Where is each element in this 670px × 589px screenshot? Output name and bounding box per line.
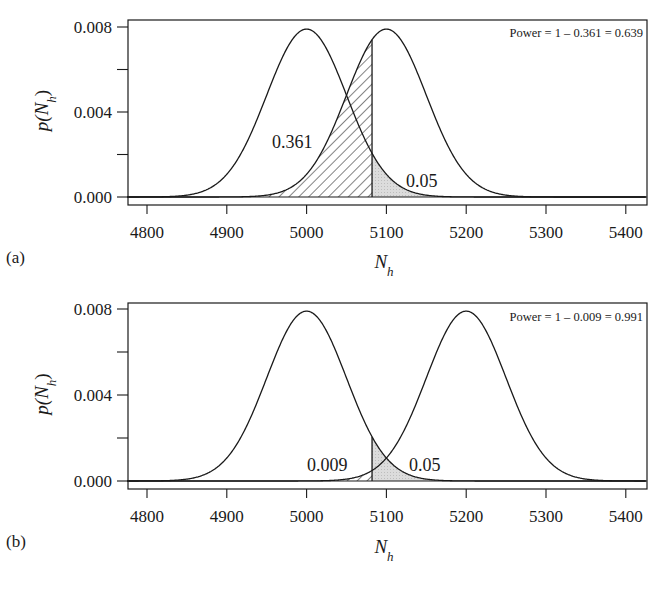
x-axis: 4800490050005100520053005400 (130, 205, 643, 242)
x-tick-label: 4900 (210, 223, 244, 242)
x-tick-label: 5400 (609, 223, 643, 242)
panel-a: 0.0000.0040.008 480049005000510052005300… (0, 0, 670, 290)
h1-density-curve (127, 311, 646, 481)
y-tick-label: 0.008 (74, 18, 112, 37)
y-axis: 0.0000.0040.008 (74, 18, 128, 207)
plot-area (127, 20, 647, 205)
alpha-annotation: 0.05 (406, 171, 438, 191)
y-tick-label: 0.000 (74, 188, 112, 207)
x-tick-label: 5300 (529, 223, 563, 242)
x-axis: 4800490050005100520053005400 (130, 489, 643, 526)
y-axis: 0.0000.0040.008 (74, 300, 128, 491)
beta-region (127, 40, 372, 197)
power-text: Power = 1 – 0.009 = 0.991 (509, 310, 643, 324)
panel-b: 0.0000.0040.008 480049005000510052005300… (0, 283, 670, 583)
plot-area (127, 303, 647, 489)
x-axis-title: Nh (373, 536, 393, 564)
power-text: Power = 1 – 0.361 = 0.639 (509, 26, 643, 40)
x-tick-label: 5400 (609, 507, 643, 526)
x-tick-label: 5100 (369, 507, 403, 526)
x-tick-label: 5200 (449, 507, 483, 526)
x-tick-label: 5200 (449, 223, 483, 242)
h1-density-curve (127, 29, 646, 197)
x-tick-label: 5100 (369, 223, 403, 242)
x-axis-title: Nh (373, 251, 393, 279)
y-tick-label: 0.004 (74, 103, 113, 122)
chart-a-svg: 0.0000.0040.008 480049005000510052005300… (0, 0, 670, 290)
h0-density-curve (127, 311, 646, 481)
h0-density-curve (127, 29, 646, 197)
x-tick-label: 4800 (130, 223, 164, 242)
x-tick-label: 5300 (529, 507, 563, 526)
y-tick-label: 0.008 (74, 300, 112, 319)
x-tick-label: 5000 (290, 223, 324, 242)
panel-label: (a) (6, 248, 25, 267)
beta-annotation: 0.361 (272, 132, 313, 152)
x-tick-label: 4900 (210, 507, 244, 526)
y-axis-title: p(Nh) (31, 373, 59, 416)
beta-annotation: 0.009 (307, 455, 348, 475)
y-tick-label: 0.004 (74, 386, 113, 405)
y-tick-label: 0.000 (74, 472, 112, 491)
chart-b-svg: 0.0000.0040.008 480049005000510052005300… (0, 283, 670, 583)
alpha-annotation: 0.05 (409, 455, 441, 475)
x-tick-label: 4800 (130, 507, 164, 526)
y-axis-title: p(Nh) (31, 90, 59, 133)
x-tick-label: 5000 (290, 507, 324, 526)
panel-label: (b) (6, 532, 26, 551)
